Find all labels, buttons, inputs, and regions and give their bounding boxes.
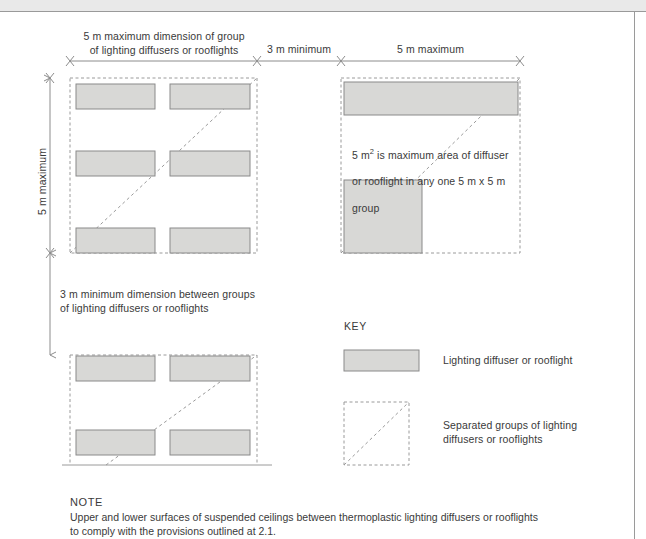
- diffuser-rect: [76, 430, 155, 455]
- diagram-canvas: [0, 0, 646, 539]
- annotation-max-area-post: is maximum area of diffuser: [374, 148, 509, 160]
- diffuser-rects: [76, 356, 250, 455]
- dim-label-3m-between-groups: 3 m minimum dimension between groups of …: [60, 288, 300, 315]
- diffuser-rects: [76, 84, 250, 253]
- key-group-swatch-diagonal: [344, 402, 409, 465]
- diffuser-rect: [76, 151, 155, 176]
- diffuser-rect: [76, 356, 155, 381]
- note-body: Upper and lower surfaces of suspended ce…: [70, 510, 630, 538]
- figure-page: 5 m maximum dimension of group of lighti…: [0, 0, 646, 539]
- note-heading: NOTE: [70, 496, 103, 508]
- key-heading: KEY: [344, 320, 367, 332]
- annotation-max-area-line3: group: [352, 202, 379, 214]
- dim-label-5m-maximum-vertical: 5 m maximum: [36, 148, 50, 215]
- group-top-left: [70, 78, 257, 253]
- group-bottom-left: [62, 355, 272, 465]
- dim-label-5m-max-group: 5 m maximum dimension of group of lighti…: [68, 30, 260, 57]
- dim-label-5m-maximum: 5 m maximum: [338, 43, 523, 57]
- diffuser-rect: [170, 228, 250, 253]
- dim-label-3m-minimum: 3 m minimum: [252, 43, 346, 57]
- key-diffuser-swatch: [344, 350, 419, 371]
- diffuser-rect: [76, 84, 155, 109]
- diffuser-rect: [170, 84, 250, 109]
- diffuser-rect: [170, 356, 250, 381]
- key-swatches: [344, 350, 419, 465]
- top-dimension-chain: [66, 56, 524, 66]
- key-label-diffuser: Lighting diffuser or rooflight: [443, 354, 633, 368]
- key-label-group: Separated groups of lighting diffusers o…: [443, 419, 623, 446]
- annotation-max-area-line2: or rooflight in any one 5 m x 5 m: [352, 175, 505, 187]
- diffuser-rect: [170, 430, 250, 455]
- annotation-max-area: 5 m2 is maximum area of diffuser or roof…: [352, 131, 527, 216]
- diffuser-rect: [170, 151, 250, 176]
- annotation-max-area-pre: 5 m: [352, 148, 370, 160]
- diffuser-rect: [76, 228, 155, 253]
- diffuser-rect-wide: [344, 82, 518, 115]
